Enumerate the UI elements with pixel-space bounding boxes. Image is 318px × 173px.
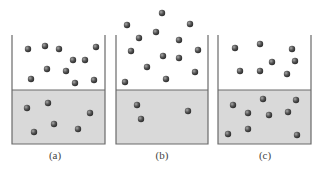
liquid-particle	[293, 97, 299, 103]
liquid-particle	[225, 131, 231, 137]
vapor-particle	[257, 68, 263, 74]
liquid-particle	[294, 132, 300, 138]
vapor-particle	[70, 57, 76, 63]
vapor-particle	[289, 46, 295, 52]
liquid-particle	[285, 109, 291, 115]
vapor-particle	[159, 10, 165, 16]
liquid-particle	[266, 112, 272, 118]
liquid-particle	[260, 96, 266, 102]
vapor-liquid-diagram	[0, 0, 318, 173]
vapor-particle	[72, 80, 78, 86]
container-b	[116, 10, 208, 144]
liquid-particle	[245, 126, 251, 132]
vapor-particle	[56, 46, 62, 52]
vapor-particle	[195, 47, 201, 53]
liquid-region	[12, 90, 105, 144]
vapor-particle	[42, 43, 48, 49]
vapor-particle	[176, 55, 182, 61]
liquid-particle	[134, 102, 140, 108]
liquid-particle	[31, 129, 37, 135]
vapor-particle	[44, 66, 50, 72]
vapor-particle	[163, 76, 169, 82]
vapor-particle	[28, 76, 34, 82]
vapor-particle	[128, 48, 134, 54]
vapor-particle	[257, 41, 263, 47]
vapor-particle	[237, 68, 243, 74]
vapor-particle	[160, 53, 166, 59]
liquid-particle	[245, 110, 251, 116]
vapor-particle	[284, 71, 290, 77]
vapor-particle	[192, 69, 198, 75]
liquid-particle	[230, 102, 236, 108]
vapor-particle	[292, 58, 298, 64]
vapor-particle	[25, 46, 31, 52]
liquid-particle	[87, 110, 93, 116]
liquid-particle	[45, 100, 51, 106]
container-a	[12, 35, 105, 144]
vapor-particle	[82, 57, 88, 63]
vapor-particle	[63, 68, 69, 74]
panel-label-b: (b)	[142, 149, 182, 161]
vapor-particle	[122, 79, 128, 85]
vapor-particle	[269, 59, 275, 65]
vapor-particle	[136, 35, 142, 41]
panel-label-a: (a)	[35, 149, 75, 161]
container-c	[218, 35, 311, 144]
vapor-particle	[93, 44, 99, 50]
vapor-particle	[91, 77, 97, 83]
liquid-particle	[138, 116, 144, 122]
vapor-particle	[176, 37, 182, 43]
vapor-particle	[187, 21, 193, 27]
vapor-particle	[232, 45, 238, 51]
liquid-particle	[24, 105, 30, 111]
liquid-region	[116, 90, 208, 144]
vapor-particle	[153, 29, 159, 35]
panel-label-c: (c)	[245, 149, 285, 161]
liquid-particle	[75, 126, 81, 132]
vapor-particle	[144, 64, 150, 70]
vapor-particle	[124, 22, 130, 28]
liquid-particle	[51, 121, 57, 127]
liquid-particle	[185, 108, 191, 114]
